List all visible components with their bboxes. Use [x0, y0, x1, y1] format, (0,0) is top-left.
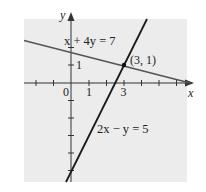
line-label-2x-minus-y: 2x − y = 5: [97, 122, 149, 136]
y-axis-arrow-icon: [68, 12, 75, 21]
y-tick-label-1: 1: [76, 58, 82, 72]
x-tick-label-0: 0: [63, 85, 69, 99]
intersection-label: (3, 1): [130, 53, 156, 67]
y-axis-label: y: [59, 8, 66, 22]
x-tick-label-1: 1: [86, 85, 92, 99]
x-axis-label: x: [187, 86, 194, 100]
line-label-x-plus-4y: x + 4y = 7: [64, 34, 116, 48]
intersection-point: [122, 63, 126, 67]
x-tick-label-3: 3: [121, 85, 127, 99]
linear-system-graph: y x x + 4y = 7 2x − y = 5 (3, 1) 0 1 3 1: [0, 0, 206, 192]
